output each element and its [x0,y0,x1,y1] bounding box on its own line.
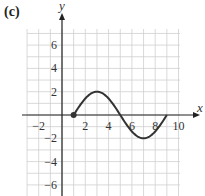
y-tick-label: −4 [44,155,57,169]
y-tick-label: −2 [44,131,57,145]
sine-graph: xy−2246810642−2−4−6 [0,0,205,196]
y-axis-label: y [57,0,65,13]
x-tick-label: 4 [106,119,112,133]
start-point-dot-icon [71,112,77,118]
x-tick-label: −2 [32,119,45,133]
y-tick-label: −6 [44,178,57,192]
y-tick-label: 2 [51,85,57,99]
y-tick-label: 4 [51,61,57,75]
x-axis-label: x [196,100,203,115]
x-tick-label: 10 [173,119,185,133]
y-tick-label: 6 [51,38,57,52]
x-tick-label: 2 [82,119,88,133]
y-axis-arrow-icon [59,13,65,20]
